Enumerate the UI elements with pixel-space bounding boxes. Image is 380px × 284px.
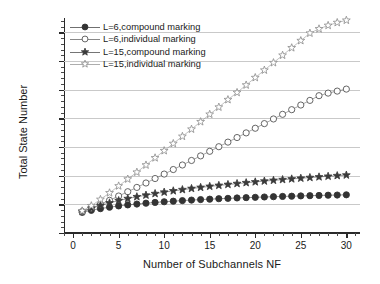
data-point [279, 176, 287, 183]
legend-label: L=6,compound marking [100, 22, 200, 32]
x-tick [301, 233, 302, 238]
data-point [206, 182, 214, 189]
data-point [270, 116, 276, 122]
data-point [261, 194, 267, 200]
series-line [82, 89, 346, 211]
x-tick-minor [137, 233, 138, 236]
x-tick-minor [182, 233, 183, 236]
data-point [252, 194, 258, 200]
data-point [216, 196, 222, 202]
legend-item[interactable]: L=6,compound marking [70, 21, 250, 33]
data-point [169, 187, 177, 194]
data-point [143, 200, 149, 206]
x-axis-title: Number of Subchannels NF [64, 258, 360, 270]
data-point [152, 175, 158, 181]
x-tick-label: 5 [116, 240, 122, 251]
data-point [252, 125, 258, 131]
x-tick-minor [64, 233, 65, 236]
x-tick-minor [128, 233, 129, 236]
data-point [152, 199, 158, 205]
x-tick-minor [355, 233, 356, 236]
legend-label: L=15,individual marking [100, 59, 201, 69]
x-tick-minor [146, 233, 147, 236]
figure-chart: Total State Number Number of Subchannels… [0, 0, 380, 284]
data-point [125, 189, 131, 195]
data-point [224, 180, 232, 187]
x-tick-minor [155, 233, 156, 236]
x-tick-label: 0 [70, 240, 76, 251]
data-point [179, 198, 185, 204]
data-point [325, 192, 331, 198]
data-point [343, 86, 349, 92]
x-tick-minor [292, 233, 293, 236]
data-point [334, 88, 340, 94]
data-point [343, 192, 349, 198]
legend-marker-open-star-icon [70, 58, 100, 70]
data-point [225, 195, 231, 201]
data-point [234, 134, 240, 140]
legend: L=6,compound markingL=6,individual marki… [70, 21, 250, 70]
x-tick-label: 20 [250, 240, 261, 251]
legend-item[interactable]: L=15,individual marking [70, 58, 250, 70]
data-point [124, 195, 132, 202]
data-point [334, 192, 340, 198]
data-point [242, 179, 250, 186]
x-tick-minor [82, 233, 83, 236]
legend-symbol [79, 46, 91, 58]
x-tick-minor [319, 233, 320, 236]
x-tick-minor [201, 233, 202, 236]
data-point [216, 144, 222, 150]
data-point [279, 111, 285, 117]
data-point [315, 173, 323, 180]
x-tick-minor [310, 233, 311, 236]
data-point [316, 192, 322, 198]
legend-symbol [79, 33, 91, 45]
x-tick [73, 233, 74, 238]
x-tick-minor [91, 233, 92, 236]
data-point [307, 97, 313, 103]
legend-symbol [79, 21, 91, 33]
x-tick-minor [219, 233, 220, 236]
data-point [316, 93, 322, 99]
data-point [306, 173, 314, 180]
data-point [289, 193, 295, 199]
data-point [298, 102, 304, 108]
x-tick-minor [192, 233, 193, 236]
data-point [161, 199, 167, 205]
data-point [207, 196, 213, 202]
data-point [243, 130, 249, 136]
data-point [260, 177, 268, 184]
x-tick [255, 233, 256, 238]
data-point [188, 157, 194, 163]
x-tick-minor [228, 233, 229, 236]
data-point [289, 107, 295, 113]
data-point [134, 184, 140, 190]
data-point [142, 191, 150, 198]
x-tick-label: 25 [295, 240, 306, 251]
x-tick-minor [273, 233, 274, 236]
data-point [270, 176, 278, 183]
data-point [342, 16, 350, 23]
legend-item[interactable]: L=6,individual marking [70, 33, 250, 45]
x-tick [119, 233, 120, 238]
x-tick-label: 15 [204, 240, 215, 251]
data-point [261, 121, 267, 127]
data-point [179, 162, 185, 168]
legend-marker-open-circle-icon [70, 33, 100, 45]
x-tick-minor [246, 233, 247, 236]
legend-item[interactable]: L=15,compound marking [70, 46, 250, 58]
data-point [333, 18, 341, 25]
x-tick-minor [173, 233, 174, 236]
data-point [297, 174, 305, 181]
y-axis-title: Total State Number [17, 57, 29, 207]
x-tick-minor [264, 233, 265, 236]
data-point [279, 193, 285, 199]
data-point [307, 193, 313, 199]
data-point [207, 148, 213, 154]
x-tick-minor [237, 233, 238, 236]
data-point [161, 171, 167, 177]
data-point [225, 139, 231, 145]
data-point [215, 181, 223, 188]
data-point [188, 184, 196, 191]
data-point [125, 202, 131, 208]
